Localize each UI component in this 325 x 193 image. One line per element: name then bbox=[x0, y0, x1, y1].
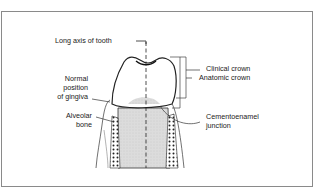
label-clinical-crown: Clinical crown bbox=[206, 65, 250, 73]
label-gingiva-3: of gingiva bbox=[40, 93, 88, 101]
label-anatomic-crown: Anatomic crown bbox=[199, 74, 250, 82]
label-cej-1: Cementoenamel bbox=[206, 113, 259, 121]
label-long-axis: Long axis of tooth bbox=[55, 37, 112, 45]
tooth-root bbox=[118, 108, 170, 168]
alveolar-bone-right bbox=[166, 114, 178, 168]
label-alveolar-1: Alveolar bbox=[40, 112, 92, 120]
alveolar-bone-left bbox=[110, 116, 120, 168]
label-gingiva-2: position bbox=[40, 84, 88, 92]
label-alveolar-2: bone bbox=[40, 121, 92, 129]
gingiva-left bbox=[96, 100, 110, 168]
label-gingiva-1: Normal bbox=[40, 75, 88, 83]
label-cej-2: junction bbox=[206, 122, 231, 130]
